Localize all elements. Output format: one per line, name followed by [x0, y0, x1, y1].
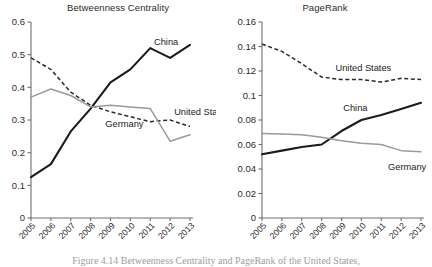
x-axis-tick-label: 2007 — [57, 220, 78, 241]
series-label-united-states: United States — [335, 63, 391, 73]
y-axis-tick-label: 0.5 — [12, 49, 25, 60]
series-label-germany: Germany — [105, 119, 144, 129]
x-axis-tick-label: 2007 — [288, 220, 309, 241]
x-axis-tick-label: 2012 — [156, 220, 177, 241]
x-axis-tick-label: 2010 — [116, 220, 137, 241]
x-axis-tick-label: 2013 — [407, 220, 428, 241]
y-axis-tick-label: 0.1 — [243, 90, 256, 101]
x-axis-tick-label: 2010 — [347, 220, 368, 241]
figure-container: Betweenness Centrality 00.10.20.30.40.50… — [0, 0, 432, 267]
x-axis-tick-label: 2011 — [137, 220, 157, 240]
series-line-china — [262, 103, 421, 154]
y-axis-tick-label: 0.4 — [12, 82, 25, 93]
plot-area-pagerank: 00.020.040.060.080.10.120.140.16 United … — [216, 0, 432, 252]
y-axis-tick-label: 0.08 — [238, 114, 257, 125]
y-axis-tick-label: 0.16 — [238, 16, 257, 27]
y-axis-tick-label: 0 — [20, 212, 25, 223]
y-axis-tick-label: 0.14 — [238, 41, 257, 52]
y-axis-tick-label: 0 — [251, 212, 256, 223]
series-line-china — [31, 45, 190, 177]
y-axis-tick-label: 0.2 — [12, 147, 25, 158]
y-axis-tick-label: 0.04 — [238, 163, 257, 174]
y-axis-tick-label: 0.06 — [238, 139, 257, 150]
axes-pagerank: 00.020.040.060.080.10.120.140.16 — [238, 16, 425, 223]
x-axis-tick-label: 2008 — [76, 220, 97, 241]
x-axis-tick-label: 2006 — [37, 220, 58, 241]
series-label-germany: Germany — [388, 162, 427, 172]
chart-panel-pagerank: PageRank 00.020.040.060.080.10.120.140.1… — [216, 0, 432, 252]
x-axis-tick-label: 2012 — [387, 220, 408, 241]
series-labels-betweenness-centrality: ChinaUnited StatesGermany — [105, 37, 216, 129]
series-label-united-states: United States — [174, 107, 216, 117]
series-group-betweenness-centrality — [31, 45, 190, 177]
series-group-pagerank — [262, 44, 421, 154]
series-label-china: China — [154, 37, 179, 47]
chart-panel-betweenness-centrality: Betweenness Centrality 00.10.20.30.40.50… — [0, 0, 216, 252]
plot-area-betweenness-centrality: 00.10.20.30.40.50.6 ChinaUnited StatesGe… — [0, 0, 216, 252]
x-axis-tick-label: 2009 — [327, 220, 348, 241]
figure-caption: Figure 4.14 Betweenness Centrality and P… — [0, 255, 432, 266]
x-axis-tick-label: 2009 — [96, 220, 117, 241]
x-axis-tick-label: 2008 — [307, 220, 328, 241]
series-label-china: China — [343, 103, 368, 113]
x-axis-tick-label: 2006 — [268, 220, 289, 241]
x-axis-tick-label: 2011 — [368, 220, 388, 240]
x-axis-labels-betweenness-centrality: 200520062007200820092010201120122013 — [17, 218, 197, 241]
x-axis-labels-pagerank: 200520062007200820092010201120122013 — [248, 218, 428, 241]
y-axis-tick-label: 0.6 — [12, 16, 25, 27]
series-line-united-states — [31, 58, 190, 127]
x-axis-tick-label: 2013 — [176, 220, 197, 241]
y-axis-tick-label: 0.12 — [238, 65, 257, 76]
series-line-germany — [31, 89, 190, 141]
y-axis-tick-label: 0.02 — [238, 188, 257, 199]
y-axis-tick-label: 0.3 — [12, 114, 25, 125]
y-axis-tick-label: 0.1 — [12, 180, 25, 191]
